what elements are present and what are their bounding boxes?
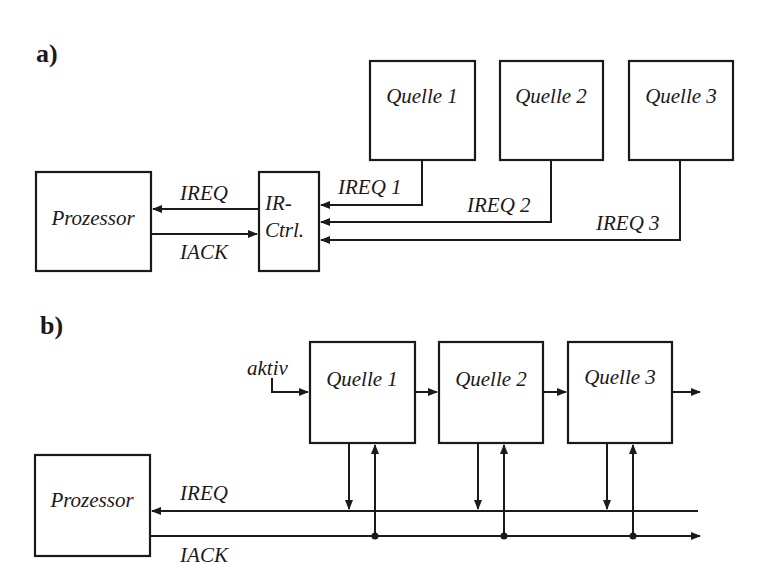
ir-controller-label-line1: IR-: [264, 191, 292, 215]
processor-box-a: Prozessor: [36, 172, 151, 271]
ir-controller-label-line2: Ctrl.: [265, 218, 304, 242]
source-label-b-2: Quelle 2: [455, 367, 527, 391]
ir-controller-box: IR- Ctrl.: [259, 172, 319, 271]
source-label-b-3: Quelle 3: [584, 365, 656, 389]
iack-label-a: IACK: [179, 240, 229, 264]
source-label-a-1: Quelle 1: [386, 84, 458, 108]
ireq-label-a: IREQ: [179, 181, 228, 205]
processor-box-b: Prozessor: [35, 455, 150, 556]
diagram-b: b) Prozessor aktiv Quelle 1 Quelle 2 Que…: [35, 311, 700, 567]
aktiv-label: aktiv: [247, 356, 288, 380]
ireq-label-b: IREQ: [179, 481, 228, 505]
source-box-a-3: Quelle 3: [629, 61, 733, 160]
source-box-a-1: Quelle 1: [370, 61, 475, 160]
source-label-a-3: Quelle 3: [645, 84, 717, 108]
source-box-b-1: Quelle 1: [310, 342, 415, 443]
section-label-a: a): [36, 39, 58, 68]
ireq2-label: IREQ 2: [466, 193, 531, 217]
iack-label-b: IACK: [179, 543, 229, 567]
source-box-a-2: Quelle 2: [500, 61, 603, 160]
source-box-b-3: Quelle 3: [568, 342, 672, 443]
aktiv-arrow: [272, 378, 308, 392]
source-label-a-2: Quelle 2: [515, 84, 587, 108]
processor-label-b: Prozessor: [49, 488, 134, 512]
diagram-a: a) Prozessor IR- Ctrl. IREQ IACK Quelle …: [36, 39, 733, 271]
junction-dot-2: [501, 533, 508, 540]
section-label-b: b): [40, 311, 63, 340]
interrupt-diagrams: a) Prozessor IR- Ctrl. IREQ IACK Quelle …: [0, 0, 758, 570]
ireq3-label: IREQ 3: [595, 211, 660, 235]
source-box-b-2: Quelle 2: [439, 342, 543, 443]
processor-label-a: Prozessor: [50, 206, 135, 230]
junction-dot-3: [630, 533, 637, 540]
ireq1-label: IREQ 1: [337, 175, 402, 199]
junction-dot-1: [372, 533, 379, 540]
source-label-b-1: Quelle 1: [326, 367, 398, 391]
